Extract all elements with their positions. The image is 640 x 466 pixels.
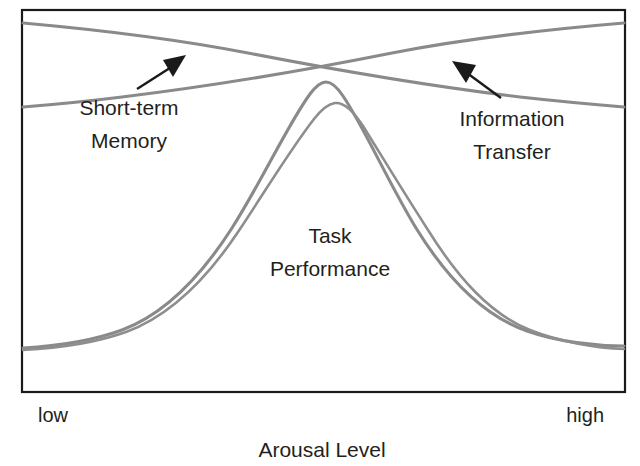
label-task-performance-line2: Performance bbox=[270, 257, 390, 280]
x-axis-title: Arousal Level bbox=[258, 438, 385, 461]
xtick-label-low: low bbox=[38, 404, 69, 426]
yerkes-dodson-chart: Short-term Memory Information Transfer T… bbox=[0, 0, 640, 466]
xtick-label-high: high bbox=[566, 404, 604, 426]
label-short-term-memory-line2: Memory bbox=[91, 129, 167, 152]
chart-svg: Short-term Memory Information Transfer T… bbox=[0, 0, 640, 466]
label-task-performance-line1: Task bbox=[308, 224, 352, 247]
label-short-term-memory-line1: Short-term bbox=[79, 96, 178, 119]
label-information-transfer-line2: Transfer bbox=[473, 140, 550, 163]
label-information-transfer-line1: Information bbox=[459, 107, 564, 130]
